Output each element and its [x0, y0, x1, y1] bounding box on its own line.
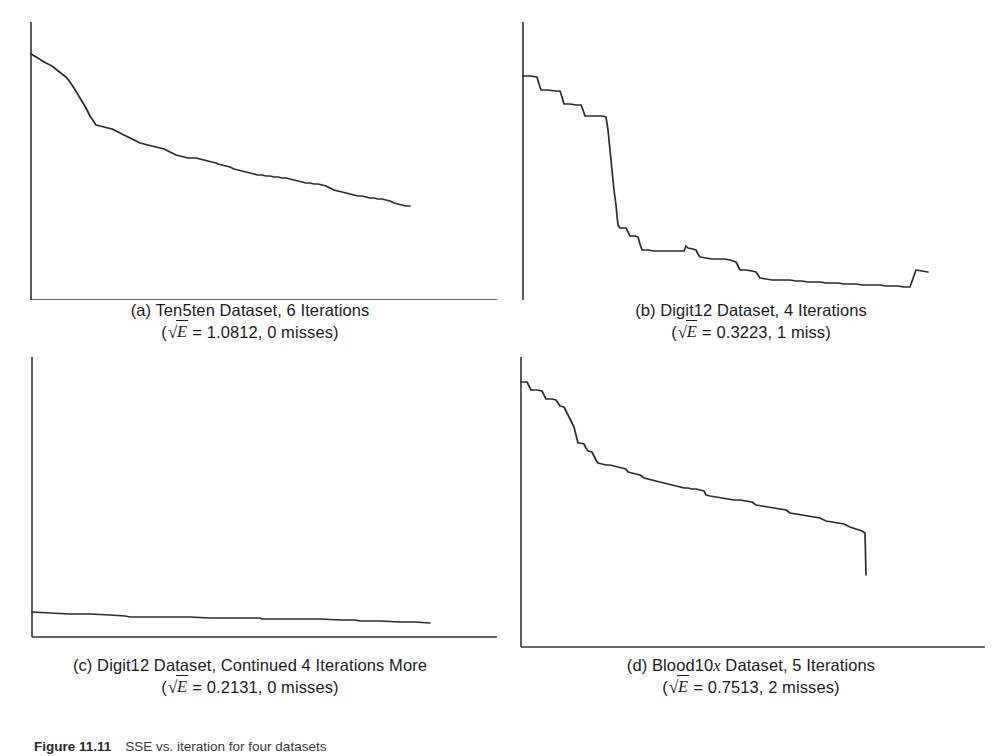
- caption-c: (c) Digit12 Dataset, Continued 4 Iterati…: [0, 655, 500, 699]
- caption-d-line1: (d) Blood10x Dataset, 5 Iterations: [501, 655, 1001, 676]
- sqrt-symbol-b: √E: [677, 321, 698, 344]
- caption-b-line1: (b) Digit12 Dataset, 4 Iterations: [501, 300, 1001, 321]
- caption-d-post: Dataset, 5 Iterations: [721, 656, 875, 674]
- error-curve-c: [32, 612, 430, 623]
- caption-c-metric-tail: = 0.2131, 0 misses): [188, 678, 339, 696]
- error-curve-b: [523, 76, 928, 287]
- metric-symbol-c: E: [177, 677, 187, 696]
- figure-caption-text: SSE vs. iteration for four datasets: [125, 739, 326, 754]
- axes-b: [523, 22, 995, 300]
- caption-b-metric-tail: = 0.3223, 1 miss): [697, 323, 830, 341]
- plot-a: [0, 0, 500, 300]
- error-curve-a: [31, 54, 410, 206]
- caption-a-metric-tail: = 1.0812, 0 misses): [188, 323, 339, 341]
- caption-a: (a) Ten5ten Dataset, 6 Iterations (√E = …: [0, 300, 500, 344]
- sqrt-symbol-d: √E: [668, 676, 689, 699]
- metric-symbol-a: E: [177, 322, 187, 341]
- figure-caption: Figure 11.11SSE vs. iteration for four d…: [34, 738, 974, 756]
- sqrt-symbol-c: √E: [167, 676, 188, 699]
- chart-c-svg: [0, 355, 500, 655]
- chart-d-svg: [501, 355, 1001, 655]
- plot-c: [0, 355, 500, 655]
- caption-b: (b) Digit12 Dataset, 4 Iterations (√E = …: [501, 300, 1001, 344]
- chart-a-svg: [0, 0, 500, 300]
- caption-d-line2: (√E = 0.7513, 2 misses): [501, 676, 1001, 699]
- caption-a-line2: (√E = 1.0812, 0 misses): [0, 321, 500, 344]
- chart-b-svg: [501, 0, 1001, 300]
- caption-d-metric-tail: = 0.7513, 2 misses): [689, 678, 840, 696]
- axes-a: [31, 22, 497, 300]
- caption-b-line2: (√E = 0.3223, 1 miss): [501, 321, 1001, 344]
- panel-c: (c) Digit12 Dataset, Continued 4 Iterati…: [0, 355, 500, 715]
- figure-caption-label: Figure 11.11: [34, 739, 111, 754]
- panel-b: (b) Digit12 Dataset, 4 Iterations (√E = …: [501, 0, 1001, 360]
- axes-c: [32, 357, 497, 637]
- error-curve-d: [521, 382, 866, 575]
- caption-c-line1: (c) Digit12 Dataset, Continued 4 Iterati…: [0, 655, 500, 676]
- caption-d-pre: (d) Blood10: [627, 656, 713, 674]
- plot-b: [501, 0, 1001, 300]
- panel-d: (d) Blood10x Dataset, 5 Iterations (√E =…: [501, 355, 1001, 715]
- caption-a-line1: (a) Ten5ten Dataset, 6 Iterations: [0, 300, 500, 321]
- caption-d: (d) Blood10x Dataset, 5 Iterations (√E =…: [501, 655, 1001, 699]
- caption-c-line2: (√E = 0.2131, 0 misses): [0, 676, 500, 699]
- caption-d-italic-x: x: [713, 656, 720, 675]
- sqrt-symbol-a: √E: [167, 321, 188, 344]
- metric-symbol-b: E: [687, 322, 697, 341]
- plot-d: [501, 355, 1001, 655]
- panel-a: (a) Ten5ten Dataset, 6 Iterations (√E = …: [0, 0, 500, 360]
- metric-symbol-d: E: [678, 677, 688, 696]
- panel-grid: (a) Ten5ten Dataset, 6 Iterations (√E = …: [0, 0, 1001, 720]
